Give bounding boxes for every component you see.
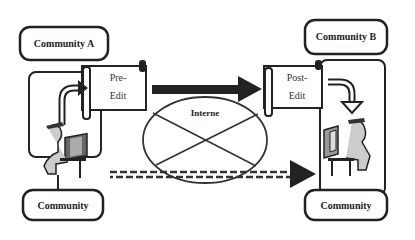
post-edit-line1: Post- [272,72,322,83]
post-edit-scroll-icon [264,60,322,116]
community-b-bottom-label: Community [305,200,387,211]
community-b-label: Community B [305,31,387,42]
post-edit-line2: Edit [272,90,322,101]
pre-edit-line1: Pre- [92,72,144,83]
community-a-label: Community A [20,38,108,49]
community-a-bottom-label: Community [23,200,103,211]
pre-edit-line2: Edit [92,90,144,101]
internet-label: Interne [175,108,235,118]
